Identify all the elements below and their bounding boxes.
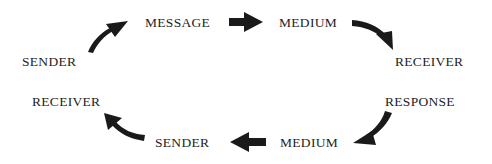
- arrows-layer: [0, 0, 492, 164]
- node-sender-bottom: SENDER: [155, 136, 209, 150]
- node-medium-top: MEDIUM: [279, 16, 337, 30]
- node-message: MESSAGE: [145, 16, 210, 30]
- curved-arrow-up-right-icon: [88, 21, 128, 53]
- node-response: RESPONSE: [385, 95, 455, 109]
- curved-arrow-down-left-icon: [353, 111, 392, 145]
- node-receiver-right: RECEIVER: [395, 55, 463, 69]
- node-sender-top: SENDER: [22, 55, 76, 69]
- arrow-right-icon: [229, 12, 263, 32]
- curved-arrow-down-right-icon: [352, 20, 393, 50]
- communication-cycle-diagram: SENDER MESSAGE MEDIUM RECEIVER RESPONSE …: [0, 0, 492, 164]
- node-receiver-left: RECEIVER: [32, 95, 100, 109]
- node-medium-bottom: MEDIUM: [280, 136, 338, 150]
- curved-arrow-up-left-icon: [104, 113, 145, 141]
- arrow-left-icon: [230, 132, 266, 152]
